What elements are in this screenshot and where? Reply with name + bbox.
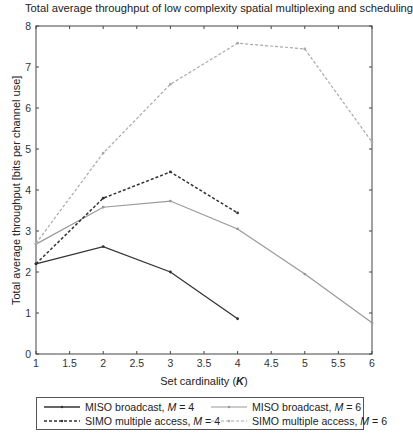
legend-line-icon [43,417,81,425]
y-tick-label: 8 [25,20,31,32]
data-point-marker [236,317,239,320]
y-tick-label: 4 [25,184,31,196]
legend-label: MISO broadcast, M = 6 [252,401,361,413]
data-point-marker [169,171,172,174]
data-point-marker [102,206,105,209]
legend-label: SIMO multiple access, M = 4 [85,415,220,427]
y-tick-label: 2 [25,266,31,278]
x-axis-label-suffix: ) [244,375,248,387]
data-point-marker [303,273,306,276]
plot-frame [36,26,372,354]
data-point-marker [169,83,172,86]
legend-item-miso-m4: MISO broadcast, M = 4 [43,400,194,414]
x-tick-label: 1 [33,357,39,369]
legend-item-simo-m4: SIMO multiple access, M = 4 [43,414,220,428]
legend-item-miso-m6: MISO broadcast, M = 6 [210,400,361,414]
data-point-marker [35,262,38,265]
legend-line-icon [210,403,248,411]
data-point-marker [236,212,239,215]
x-tick-label: 3.5 [197,357,212,369]
series-line [36,247,238,319]
legend-label: MISO broadcast, M = 4 [85,401,194,413]
x-tick-label: 2 [100,357,106,369]
legend-line-icon [210,417,248,425]
data-point-marker [371,321,374,324]
x-tick-label: 4 [235,357,241,369]
series-line [36,172,238,264]
data-point-marker [371,141,374,144]
data-point-marker [303,48,306,51]
x-tick-label: 5 [302,357,308,369]
series-line [36,43,372,243]
x-tick-label: 1.5 [62,357,77,369]
y-axis-label: Total average throughput [bits per chann… [10,75,22,304]
data-point-marker [102,152,105,155]
y-tick-label: 0 [25,348,31,360]
data-point-marker [236,42,239,45]
x-tick-label: 5.5 [331,357,346,369]
x-tick-label: 4.5 [264,357,279,369]
data-point-marker [169,271,172,274]
data-point-marker [169,200,172,203]
y-tick-label: 5 [25,143,31,155]
data-point-marker [102,197,105,200]
x-axis-label-prefix: Set cardinality ( [160,375,236,387]
y-tick-label: 7 [25,61,31,73]
x-axis-label: Set cardinality (K) [0,375,408,387]
legend-line-icon [43,403,81,411]
series-line [36,201,372,323]
legend: MISO broadcast, M = 4 MISO broadcast, M … [36,397,364,430]
x-tick-label: 2.5 [129,357,144,369]
x-tick-label: 3 [167,357,173,369]
y-tick-label: 3 [25,225,31,237]
data-point-marker [35,242,38,245]
legend-item-simo-m6: SIMO multiple access, M = 6 [210,414,387,428]
data-point-marker [236,228,239,231]
x-tick-label: 6 [369,357,375,369]
y-tick-label: 1 [25,307,31,319]
legend-label: SIMO multiple access, M = 6 [252,415,387,427]
data-point-marker [102,245,105,248]
series-layer [35,42,374,324]
y-tick-label: 6 [25,102,31,114]
axes: 11.522.533.544.555.56012345678 [25,20,375,369]
x-axis-label-var: K [236,375,244,387]
